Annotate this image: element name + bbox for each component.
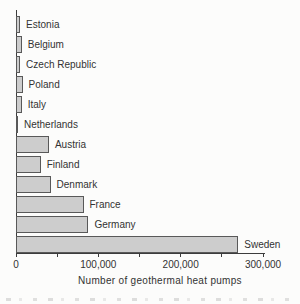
x-tick-50000 [57,253,58,257]
bar-poland [16,76,23,93]
bar-denmark [16,176,51,193]
x-tick-150000 [139,253,140,257]
bar-label-belgium: Belgium [28,36,64,53]
bar-label-finland: Finland [47,156,80,173]
x-tick-label-300000: 300,000 [233,259,293,270]
bar-france [16,196,84,213]
bar-label-poland: Poland [29,76,60,93]
x-tick-0 [16,253,17,257]
cropped-caption-fragment [6,298,294,301]
bar-label-netherlands: Netherlands [24,116,78,133]
bar-label-czech-republic: Czech Republic [26,56,96,73]
bar-estonia [16,16,20,33]
bar-label-italy: Italy [28,96,46,113]
x-axis-line [16,253,265,254]
bar-label-austria: Austria [55,136,86,153]
x-tick-100000 [98,253,99,257]
bar-label-germany: Germany [94,216,135,233]
bar-sweden [16,236,238,253]
x-tick-200000 [180,253,181,257]
x-tick-label-100000: 100,000 [68,259,128,270]
bar-finland [16,156,41,173]
x-tick-label-200000: 200,000 [151,259,211,270]
x-tick-label-0: 0 [0,259,46,270]
x-tick-250000 [221,253,222,257]
bar-label-denmark: Denmark [57,176,98,193]
bar-belgium [16,36,22,53]
bar-label-sweden: Sweden [244,236,280,253]
bar-germany [16,216,88,233]
bar-austria [16,136,49,153]
bar-label-france: France [90,196,121,213]
bar-italy [16,96,22,113]
bar-label-estonia: Estonia [26,16,59,33]
x-tick-300000 [263,253,264,257]
bar-czech-republic [16,56,20,73]
bar-netherlands [16,116,18,133]
geothermal-heat-pump-bar-chart: EstoniaBelgiumCzech RepublicPolandItalyN… [0,0,300,304]
x-axis-title: Number of geothermal heat pumps [30,275,290,286]
